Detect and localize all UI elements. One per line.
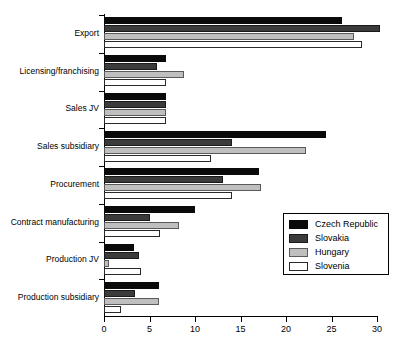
bar bbox=[104, 168, 259, 175]
bar bbox=[104, 63, 157, 70]
legend: Czech RepublicSlovakiaHungarySlovenia bbox=[283, 213, 389, 275]
legend-swatch-icon bbox=[289, 248, 308, 257]
bar bbox=[104, 79, 166, 86]
legend-swatch-icon bbox=[289, 262, 308, 271]
x-axis-tick bbox=[241, 317, 242, 322]
bar bbox=[104, 252, 139, 259]
legend-label: Slovakia bbox=[315, 234, 349, 243]
legend-item-slovakia: Slovakia bbox=[289, 233, 349, 244]
bar bbox=[104, 93, 166, 100]
x-axis-tick-label: 5 bbox=[147, 324, 152, 334]
legend-item-slovenia: Slovenia bbox=[289, 261, 350, 272]
bar bbox=[104, 71, 184, 78]
category-label: Licensing/franchising bbox=[0, 66, 99, 76]
legend-item-czech-republic: Czech Republic bbox=[289, 219, 378, 230]
bar bbox=[104, 33, 354, 40]
bar bbox=[104, 101, 166, 108]
bar bbox=[104, 117, 166, 124]
bar bbox=[104, 131, 326, 138]
bar bbox=[104, 184, 261, 191]
x-axis-tick bbox=[286, 317, 287, 322]
category-label: Contract manufacturing bbox=[0, 217, 99, 227]
x-axis-tick-label: 10 bbox=[190, 324, 200, 334]
bar bbox=[104, 155, 211, 162]
bar bbox=[104, 260, 109, 267]
x-axis-tick-label: 20 bbox=[281, 324, 291, 334]
bar bbox=[104, 192, 232, 199]
bar bbox=[104, 206, 195, 213]
legend-item-hungary: Hungary bbox=[289, 247, 349, 258]
y-axis-tick bbox=[99, 204, 104, 205]
bar bbox=[104, 17, 342, 24]
x-axis-tick-label: 25 bbox=[326, 324, 336, 334]
bar bbox=[104, 55, 166, 62]
category-label: Export bbox=[0, 28, 99, 38]
bar bbox=[104, 41, 362, 48]
x-axis-tick bbox=[332, 317, 333, 322]
bar bbox=[104, 290, 135, 297]
bar bbox=[104, 230, 160, 237]
bar bbox=[104, 214, 150, 221]
bar bbox=[104, 109, 166, 116]
legend-label: Slovenia bbox=[315, 262, 350, 271]
x-axis-tick-label: 30 bbox=[372, 324, 382, 334]
legend-swatch-icon bbox=[289, 220, 308, 229]
x-axis-tick-label: 0 bbox=[101, 324, 106, 334]
x-axis-tick bbox=[195, 317, 196, 322]
bar bbox=[104, 298, 159, 305]
bar bbox=[104, 306, 121, 313]
x-axis-tick bbox=[150, 317, 151, 322]
y-axis-tick bbox=[99, 279, 104, 280]
bar bbox=[104, 268, 141, 275]
bar-chart: ExportLicensing/franchisingSales JVSales… bbox=[0, 0, 398, 347]
y-axis-tick bbox=[99, 53, 104, 54]
category-label: Sales subsidiary bbox=[0, 141, 99, 151]
y-axis-tick bbox=[99, 15, 104, 16]
y-axis-tick bbox=[99, 242, 104, 243]
bar bbox=[104, 244, 134, 251]
category-label: Sales JV bbox=[0, 103, 99, 113]
bar bbox=[104, 222, 179, 229]
x-axis-tick-label: 15 bbox=[235, 324, 245, 334]
bar bbox=[104, 176, 223, 183]
x-axis-tick bbox=[104, 317, 105, 322]
legend-swatch-icon bbox=[289, 234, 308, 243]
y-axis-tick bbox=[99, 128, 104, 129]
bar bbox=[104, 147, 306, 154]
category-label: Production subsidiary bbox=[0, 292, 99, 302]
legend-label: Czech Republic bbox=[315, 220, 378, 229]
bar bbox=[104, 139, 232, 146]
category-label: Production JV bbox=[0, 254, 99, 264]
category-label: Procurement bbox=[0, 179, 99, 189]
x-axis-tick bbox=[377, 317, 378, 322]
y-axis-tick bbox=[99, 166, 104, 167]
bar bbox=[104, 282, 159, 289]
legend-label: Hungary bbox=[315, 248, 349, 257]
y-axis-tick bbox=[99, 91, 104, 92]
bar bbox=[104, 25, 380, 32]
